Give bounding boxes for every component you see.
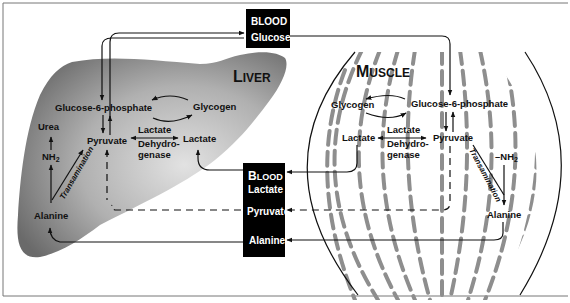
muscle-ldh-3: genase [387, 149, 420, 160]
liver-ldh-3: genase [138, 149, 171, 160]
liver-ldh-1: Lactate [138, 124, 171, 135]
cori-cycle-diagram: BLOOD Glucose BLOOD Lactate Pyruvate Ala… [0, 0, 570, 303]
muscle-lactate: Lactate [342, 132, 375, 143]
muscle-outline-right [520, 52, 561, 295]
muscle-glycogen: Glycogen [331, 99, 374, 110]
muscle-ldh-2: Dehydro- [387, 138, 429, 149]
liver-urea: Urea [38, 121, 60, 132]
muscle-ldh-1: Lactate [387, 124, 420, 135]
liver-glucose6p: Glucose-6-phosphate [55, 102, 152, 113]
liver-alanine: Alanine [34, 210, 68, 221]
liver-ldh-2: Dehydro- [138, 138, 180, 149]
liver-lactate: Lactate [183, 133, 216, 144]
muscle-title: MUSCLE [356, 63, 410, 80]
muscle-glucose6p: Glucose-6-phosphate [411, 98, 508, 109]
muscle-lactate-to-blood-arrow [287, 145, 357, 172]
blood-lactate-label: Lactate [248, 184, 283, 195]
blood-glucose-box: BLOOD Glucose [246, 9, 291, 48]
blood-metabolite-box: BLOOD Lactate Pyruvate Alanine [243, 163, 290, 257]
blood-pyruvate-label: Pyruvate [247, 206, 290, 217]
muscle-outline-left [307, 52, 358, 295]
liver-glycogen: Glycogen [193, 101, 236, 112]
muscle-pyruvate: Pyruvate [433, 132, 473, 143]
blood-glucose-title: BLOOD [251, 16, 287, 27]
muscle-alanine: Alanine [487, 209, 521, 220]
muscle-fibers [327, 50, 537, 300]
blood-alanine-label: Alanine [249, 235, 286, 246]
blood-glucose-label: Glucose [251, 32, 291, 43]
liver-pyruvate: Pyruvate [87, 135, 127, 146]
muscle-pyruvate-to-blood-line [287, 146, 450, 210]
blood-box-title: BLOOD [248, 169, 283, 183]
liver-title: LIVER [233, 68, 271, 85]
